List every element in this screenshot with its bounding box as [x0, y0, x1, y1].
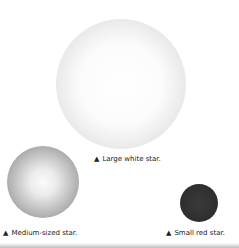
caption-large-star: ▲Large white star. — [94, 155, 161, 163]
triangle-marker-icon: ▲ — [166, 229, 171, 237]
large-white-star-image — [56, 19, 186, 149]
page-edge-divider — [0, 243, 239, 248]
small-red-star-image — [180, 184, 218, 222]
medium-sized-star-image — [7, 146, 79, 218]
caption-small-star: ▲Small red star. — [166, 229, 225, 237]
triangle-marker-icon: ▲ — [94, 155, 99, 163]
triangle-marker-icon: ▲ — [3, 229, 8, 237]
caption-medium-star: ▲Medium-sized star. — [3, 229, 77, 237]
